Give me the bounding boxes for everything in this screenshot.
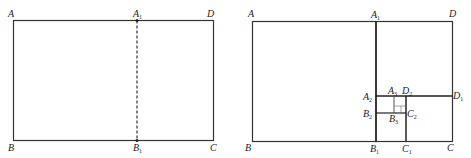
- label-a: A: [7, 8, 15, 19]
- point-a1: [136, 19, 139, 22]
- label-b3: B3: [389, 113, 398, 125]
- label-d2: D2: [401, 85, 412, 97]
- label-b1: B1: [133, 142, 142, 154]
- label-b1: B1: [370, 143, 379, 155]
- label-d: D: [206, 8, 215, 19]
- label-b: B: [8, 142, 14, 153]
- label-b2: B2: [363, 108, 372, 120]
- rectangle-abcd: [14, 21, 214, 141]
- label-c1: C1: [402, 143, 412, 155]
- golden-rectangle-diagram: A D B C A1 B1 A D B C A1 B1 A2 B2 C1 C2 …: [0, 0, 471, 158]
- label-a: A: [247, 8, 255, 19]
- right-figure: A D B C A1 B1 A2 B2 C1 C2 D1 D2 A3 B3: [245, 8, 463, 155]
- label-d1: D1: [452, 90, 463, 102]
- label-c: C: [210, 142, 217, 153]
- label-b: B: [245, 142, 251, 153]
- label-d: D: [448, 8, 457, 19]
- label-a2: A2: [362, 91, 372, 103]
- label-c: C: [447, 142, 454, 153]
- label-a1: A1: [370, 9, 380, 21]
- left-figure: A D B C A1 B1: [7, 8, 217, 154]
- rectangle-abcd: [253, 22, 453, 142]
- label-a3: A3: [387, 85, 397, 97]
- label-a1: A1: [132, 8, 142, 20]
- label-c2: C2: [407, 108, 417, 120]
